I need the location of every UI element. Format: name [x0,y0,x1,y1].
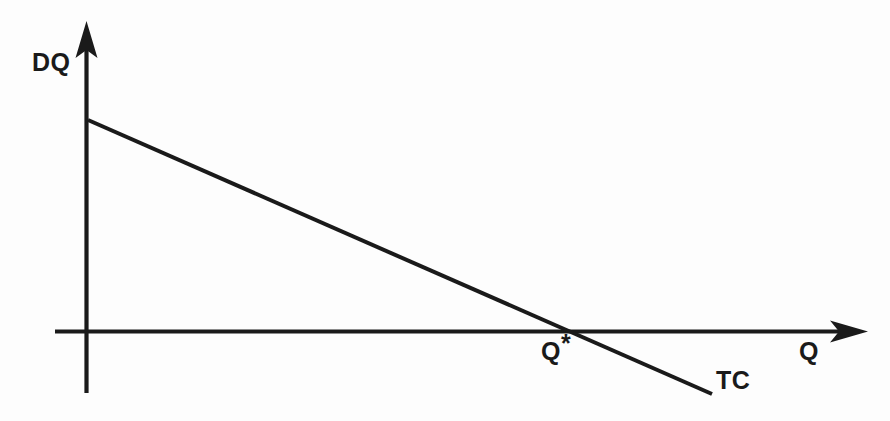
diagram-svg [0,0,890,421]
x-axis-label: Q [799,339,819,364]
equilibrium-quantity-label: Q* [541,339,571,364]
equilibrium-label-star: * [561,329,571,357]
y-axis-label: DQ [32,50,71,75]
equilibrium-label-base: Q [541,337,561,365]
diagram-canvas: DQ Q Q* TC [0,0,890,421]
tc-curve-line [88,120,712,394]
tc-curve-label: TC [716,368,750,393]
